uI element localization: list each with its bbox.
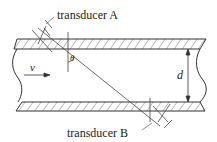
top-pipe-wall bbox=[14, 39, 206, 49]
diameter-label: d bbox=[177, 68, 184, 82]
left-break-line bbox=[13, 49, 22, 102]
transducer-b-leader bbox=[142, 123, 152, 130]
bottom-pipe-wall bbox=[16, 102, 205, 111]
transducer-a-label: transducer A bbox=[57, 8, 118, 22]
flowmeter-diagram: transducer A transducer B v θ d bbox=[0, 0, 217, 142]
diameter-arrow bbox=[186, 49, 190, 102]
angle-label: θ bbox=[70, 53, 75, 63]
right-break-line bbox=[196, 49, 206, 102]
transducer-a-leader bbox=[46, 17, 54, 24]
transducer-b-label: transducer B bbox=[67, 126, 128, 140]
velocity-arrow bbox=[24, 73, 50, 77]
velocity-label: v bbox=[30, 61, 35, 73]
